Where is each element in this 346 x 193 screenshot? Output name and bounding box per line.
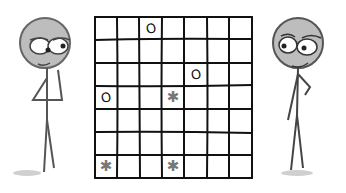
game-scene: O O O ✱ ✱ ✱ [0, 0, 346, 193]
grid-mark-star[interactable]: ✱ [95, 155, 117, 178]
grid-mark-star[interactable]: ✱ [162, 155, 184, 178]
game-grid: O O O ✱ ✱ ✱ [94, 16, 254, 180]
grid-mark-star[interactable]: ✱ [162, 86, 184, 109]
left-stick-figure [0, 0, 95, 193]
grid-mark-o[interactable]: O [95, 86, 117, 109]
grid-mark-o[interactable]: O [140, 17, 162, 40]
right-stick-figure [255, 0, 346, 193]
grid-mark-o[interactable]: O [185, 63, 207, 86]
